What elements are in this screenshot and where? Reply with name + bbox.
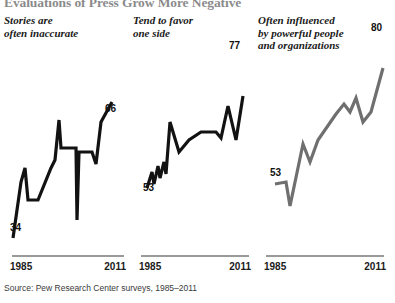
x-tick-end: 2011 bbox=[364, 261, 386, 272]
panel-caption: Stories are often inaccurate bbox=[4, 14, 132, 39]
x-tick-start: 1985 bbox=[139, 261, 161, 272]
panel-caption-line2: often inaccurate bbox=[4, 27, 132, 40]
data-line bbox=[275, 68, 383, 206]
end-value-label: 66 bbox=[105, 103, 116, 114]
data-line bbox=[13, 102, 112, 238]
panel-influenced-powerful: Often influenced by powerful people and … bbox=[258, 14, 392, 254]
panel-caption-line2: one side bbox=[133, 27, 257, 40]
start-value-label: 53 bbox=[270, 167, 281, 178]
x-axis-panel-2: 1985 2011 bbox=[133, 255, 257, 281]
x-axis-panel-1: 1985 2011 bbox=[4, 255, 132, 281]
axis-rule bbox=[141, 255, 249, 257]
axis-tick-labels: 1985 2011 bbox=[258, 261, 392, 272]
x-tick-start: 1985 bbox=[264, 261, 286, 272]
panel-stories-inaccurate: Stories are often inaccurate 34 66 bbox=[4, 14, 132, 254]
axis-tick-labels: 1985 2011 bbox=[4, 261, 132, 272]
start-value-label: 53 bbox=[143, 182, 154, 193]
panel-caption: Tend to favor one side bbox=[133, 14, 257, 39]
plot-area bbox=[4, 60, 132, 255]
data-line bbox=[147, 96, 243, 188]
end-value-label: 80 bbox=[371, 22, 382, 33]
line-chart-svg bbox=[4, 60, 132, 255]
plot-area bbox=[258, 60, 392, 255]
x-tick-end: 2011 bbox=[229, 261, 251, 272]
end-value-label: 77 bbox=[229, 40, 240, 51]
source-note: Source: Pew Research Center surveys, 198… bbox=[4, 283, 197, 293]
panel-caption-line1: Tend to favor bbox=[133, 14, 257, 27]
line-chart-svg bbox=[258, 60, 392, 255]
axis-rule bbox=[266, 255, 384, 257]
axis-tick-labels: 1985 2011 bbox=[133, 261, 257, 272]
plot-area bbox=[133, 60, 257, 255]
x-tick-start: 1985 bbox=[10, 261, 32, 272]
panel-favor-one-side: Tend to favor one side 53 77 bbox=[133, 14, 257, 254]
x-tick-end: 2011 bbox=[104, 261, 126, 272]
chart-title: Evaluations of Press Grow More Negative bbox=[4, 0, 241, 11]
panel-caption-line3: and organizations bbox=[258, 39, 392, 52]
line-chart-svg bbox=[133, 60, 257, 255]
panel-caption-line1: Stories are bbox=[4, 14, 132, 27]
x-axis-panel-3: 1985 2011 bbox=[258, 255, 392, 281]
start-value-label: 34 bbox=[10, 222, 21, 233]
axis-rule bbox=[12, 255, 124, 257]
